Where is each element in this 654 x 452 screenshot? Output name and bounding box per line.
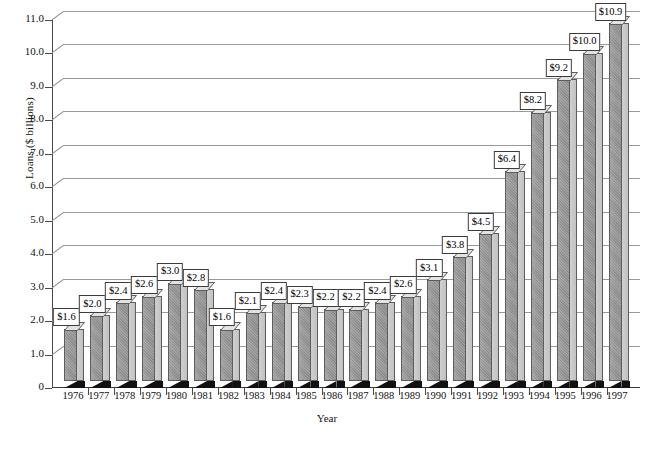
bar-side-face: [311, 306, 318, 381]
bar[interactable]: [194, 289, 214, 388]
bar[interactable]: [557, 79, 577, 388]
y-axis-tick-label: 9.0: [6, 79, 44, 91]
bar[interactable]: [246, 312, 266, 388]
bar-value-label: $3.1: [416, 259, 442, 277]
y-axis-tick-label: 4.0: [6, 246, 44, 258]
y-axis-tick-label: 11.0: [6, 12, 44, 24]
x-axis-tick-label: 1993: [503, 390, 524, 401]
bar-front-face: [64, 329, 77, 382]
bar-value-label: $2.2: [312, 289, 338, 307]
x-axis-tick-label: 1995: [555, 390, 576, 401]
bar-base-shadow: [155, 381, 163, 388]
y-axis-tick-label: 5.0: [6, 213, 44, 225]
bar-base-shadow: [466, 381, 474, 388]
bar-base-shadow: [362, 381, 370, 388]
bar-base-shadow: [492, 381, 500, 388]
bar-value-label: $3.8: [442, 236, 468, 254]
y-axis-tick: [45, 221, 52, 222]
y-axis-tick: [45, 388, 52, 389]
bar[interactable]: [609, 23, 629, 388]
bar-value-label: $2.3: [286, 286, 312, 304]
bar[interactable]: [453, 256, 473, 388]
x-axis-tick-label: 1986: [322, 390, 343, 401]
bar[interactable]: [142, 296, 162, 388]
bar-value-label: $3.0: [157, 263, 183, 281]
bar[interactable]: [220, 329, 240, 389]
bar[interactable]: [90, 315, 110, 388]
bar[interactable]: [401, 296, 421, 388]
bar-side-face: [233, 329, 240, 382]
bar-base-shadow: [207, 381, 215, 388]
bar[interactable]: [272, 302, 292, 388]
y-axis-tick: [45, 355, 52, 356]
bar-base-shadow: [233, 381, 241, 388]
bar-front-face: [220, 329, 233, 382]
x-axis-tick-label: 1980: [166, 390, 187, 401]
y-axis-tick: [45, 53, 52, 54]
x-axis-tick-label: 1981: [192, 390, 213, 401]
y-axis-tick: [45, 120, 52, 121]
bar[interactable]: [479, 233, 499, 388]
bar-value-label: $2.4: [105, 282, 131, 300]
bar[interactable]: [531, 112, 551, 388]
bar-side-face: [466, 256, 473, 381]
bar-value-label: $8.2: [520, 92, 546, 110]
bar[interactable]: [427, 279, 447, 388]
bar-base-shadow: [129, 381, 137, 388]
bar-front-face: [531, 112, 544, 381]
bar-value-label: $2.6: [131, 276, 157, 294]
x-axis-tick-label: 1982: [218, 390, 239, 401]
bar-front-face: [427, 279, 440, 381]
bar[interactable]: [375, 302, 395, 388]
bar-value-label: $6.4: [494, 151, 520, 169]
bar-front-face: [324, 309, 337, 381]
x-axis-tick-label: 1985: [296, 390, 317, 401]
x-axis-tick-label: 1997: [607, 390, 628, 401]
bar-front-face: [194, 289, 207, 381]
bar-side-face: [596, 53, 603, 381]
y-axis-tick: [45, 20, 52, 21]
bar-value-label: $10.0: [569, 33, 601, 51]
y-axis-tick: [45, 187, 52, 188]
x-axis-tick-label: 1988: [373, 390, 394, 401]
bar[interactable]: [116, 302, 136, 388]
bar-side-face: [259, 312, 266, 381]
bar-front-face: [142, 296, 155, 381]
y-axis-tick-label: 8.0: [6, 112, 44, 124]
x-axis-tick-label: 1989: [399, 390, 420, 401]
bar-value-label: $2.4: [261, 282, 287, 300]
bar[interactable]: [168, 283, 188, 388]
x-axis-tick-label: 1976: [62, 390, 83, 401]
bar-front-face: [453, 256, 466, 381]
bar-side-face: [414, 296, 421, 381]
y-axis-tick-label: 0: [6, 380, 44, 392]
y-axis-tick: [45, 87, 52, 88]
bar[interactable]: [583, 53, 603, 388]
x-axis-tick-label: 1983: [244, 390, 265, 401]
bar-value-label: $2.1: [235, 292, 261, 310]
bar-side-face: [544, 112, 551, 381]
chart-container: Loans ($ billions) 01.02.03.04.05.06.07.…: [0, 0, 654, 452]
bar[interactable]: [505, 171, 525, 388]
bar-side-face: [440, 279, 447, 381]
bar[interactable]: [298, 306, 318, 388]
bar-base-shadow: [414, 381, 422, 388]
x-axis-tick-label: 1994: [529, 390, 550, 401]
bar-value-label: $2.2: [338, 289, 364, 307]
bar-front-face: [583, 53, 596, 381]
bar[interactable]: [324, 309, 344, 388]
bar-value-label: $1.6: [53, 308, 79, 326]
bar-value-label: $10.9: [595, 3, 627, 21]
bar-value-label: $1.6: [209, 308, 235, 326]
x-axis-tick-label: 1990: [425, 390, 446, 401]
bar-value-label: $2.0: [79, 295, 105, 313]
bar-base-shadow: [622, 381, 630, 388]
x-axis-tick-label: 1977: [88, 390, 109, 401]
bar[interactable]: [349, 309, 369, 388]
bar[interactable]: [64, 329, 84, 389]
bar-front-face: [375, 302, 388, 381]
y-axis-tick-label: 7.0: [6, 146, 44, 158]
bar-front-face: [298, 306, 311, 381]
bar-side-face: [77, 329, 84, 382]
bar-base-shadow: [103, 381, 111, 388]
